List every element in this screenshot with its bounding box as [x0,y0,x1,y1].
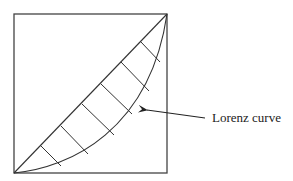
lorenz-diagram [0,0,293,181]
hatch-lines [41,42,160,166]
equality-diagonal [14,14,167,173]
lorenz-curve-label: Lorenz curve [212,110,281,126]
arrow [147,110,205,118]
